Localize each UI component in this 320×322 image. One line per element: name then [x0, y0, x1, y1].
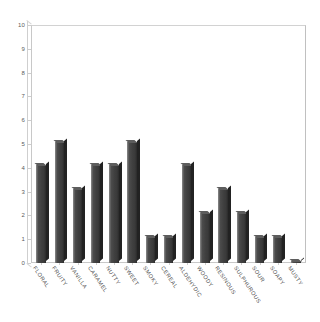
- bar-slot: [182, 25, 191, 263]
- y-axis-tick-mark: [28, 215, 31, 216]
- x-axis-tick-mark: [169, 263, 170, 265]
- y-axis-tick-label: 6: [0, 117, 25, 123]
- bar-slot: [55, 25, 64, 263]
- bar-side-face: [301, 257, 304, 261]
- bar-chart: 109876543210 FLORALFRUITYVANILLACARAMELN…: [0, 0, 320, 322]
- bar-slot: [291, 25, 300, 263]
- bar: [218, 189, 227, 263]
- y-axis-tick-label: 0: [0, 260, 25, 266]
- bar-side-face: [46, 162, 49, 261]
- x-axis-tick-label: NUTTY: [105, 265, 122, 286]
- y-axis-tick-mark: [28, 49, 31, 50]
- x-axis-tick-label: VANILLA: [69, 265, 88, 290]
- y-axis: 109876543210: [0, 25, 25, 263]
- bar-slot: [109, 25, 118, 263]
- x-axis-tick-mark: [150, 263, 151, 265]
- x-axis-tick-label: MUSTY: [287, 265, 304, 286]
- y-axis-tick-mark: [28, 192, 31, 193]
- bar-side-face: [119, 162, 122, 261]
- bar-slot: [200, 25, 209, 263]
- y-axis-tick-mark: [28, 263, 31, 264]
- bar-slot: [237, 25, 246, 263]
- x-axis: FLORALFRUITYVANILLACARAMELNUTTYSWEETSMOK…: [32, 265, 305, 322]
- bar: [127, 142, 136, 263]
- x-axis-tick-mark: [114, 263, 115, 265]
- y-axis-tick-label: 2: [0, 212, 25, 218]
- y-axis-tick-label: 4: [0, 165, 25, 171]
- bar: [182, 165, 191, 263]
- x-axis-tick-label: SWEET: [123, 265, 140, 287]
- bar-slot: [36, 25, 45, 263]
- bar: [109, 165, 118, 263]
- bar: [273, 237, 282, 263]
- bar-side-face: [210, 210, 213, 261]
- x-axis-tick-mark: [96, 263, 97, 265]
- y-axis-tick-mark: [28, 168, 31, 169]
- y-axis-tick-label: 8: [0, 70, 25, 76]
- bar: [237, 213, 246, 263]
- x-axis-tick-mark: [296, 263, 297, 265]
- bar-slot: [73, 25, 82, 263]
- y-axis-tick-mark: [28, 96, 31, 97]
- bar-side-face: [100, 162, 103, 261]
- bar: [36, 165, 45, 263]
- bar: [200, 213, 209, 263]
- bar: [91, 165, 100, 263]
- y-axis-tick-label: 1: [0, 236, 25, 242]
- bar-side-face: [191, 162, 194, 261]
- x-axis-tick-label: CEREAL: [160, 265, 179, 289]
- bar-side-face: [246, 210, 249, 261]
- x-axis-tick-mark: [205, 263, 206, 265]
- x-axis-tick-label: SMOKY: [142, 265, 160, 287]
- x-axis-tick-label: FLORAL: [32, 265, 51, 289]
- bar-slot: [164, 25, 173, 263]
- x-axis-tick-mark: [132, 263, 133, 265]
- bar-side-face: [155, 233, 158, 261]
- y-axis-tick-label: 3: [0, 189, 25, 195]
- y-axis-depth-line: [27, 21, 28, 264]
- y-axis-tick-mark: [28, 144, 31, 145]
- y-axis-tick-label: 10: [0, 22, 25, 28]
- y-axis-tick-label: 7: [0, 93, 25, 99]
- bar-side-face: [137, 138, 140, 261]
- bar-slot: [218, 25, 227, 263]
- y-axis-tick-mark: [28, 120, 31, 121]
- x-axis-tick-mark: [278, 263, 279, 265]
- x-axis-tick-label: SOUR: [251, 265, 266, 283]
- y-axis-tick-label: 9: [0, 46, 25, 52]
- x-axis-tick-mark: [223, 263, 224, 265]
- bar-side-face: [228, 186, 231, 261]
- x-axis-tick-label: FRUITY: [51, 265, 69, 287]
- bar: [164, 237, 173, 263]
- x-axis-tick-mark: [187, 263, 188, 265]
- x-axis-tick-mark: [78, 263, 79, 265]
- bar-side-face: [173, 233, 176, 261]
- bar-side-face: [264, 233, 267, 261]
- bar-side-face: [82, 186, 85, 261]
- y-axis-tick-mark: [28, 73, 31, 74]
- bar-slot: [255, 25, 264, 263]
- bar: [255, 237, 264, 263]
- y-axis-tick-label: 5: [0, 141, 25, 147]
- x-axis-tick-label: WOODY: [196, 265, 214, 288]
- bar-side-face: [64, 138, 67, 261]
- bar-side-face: [282, 233, 285, 261]
- bar-slot: [273, 25, 282, 263]
- bar: [146, 237, 155, 263]
- y-axis-tick-mark: [28, 239, 31, 240]
- bar-slot: [127, 25, 136, 263]
- bar: [73, 189, 82, 263]
- y-axis-tick-mark: [28, 25, 31, 26]
- x-axis-tick-mark: [241, 263, 242, 265]
- bar-slot: [146, 25, 155, 263]
- x-axis-tick-label: SOAPY: [269, 265, 286, 286]
- bars-layer: [32, 25, 305, 263]
- x-axis-tick-mark: [260, 263, 261, 265]
- x-axis-tick-mark: [59, 263, 60, 265]
- bar-slot: [91, 25, 100, 263]
- x-axis-tick-mark: [41, 263, 42, 265]
- bar: [55, 142, 64, 263]
